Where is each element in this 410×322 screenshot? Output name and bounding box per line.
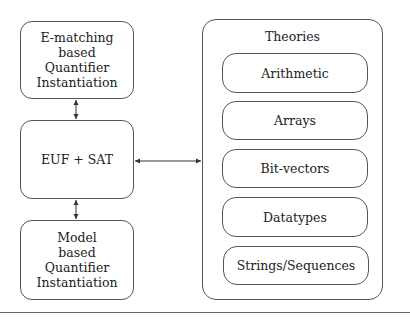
bottom-rule: [0, 312, 410, 313]
connector-arrows: [0, 0, 410, 322]
